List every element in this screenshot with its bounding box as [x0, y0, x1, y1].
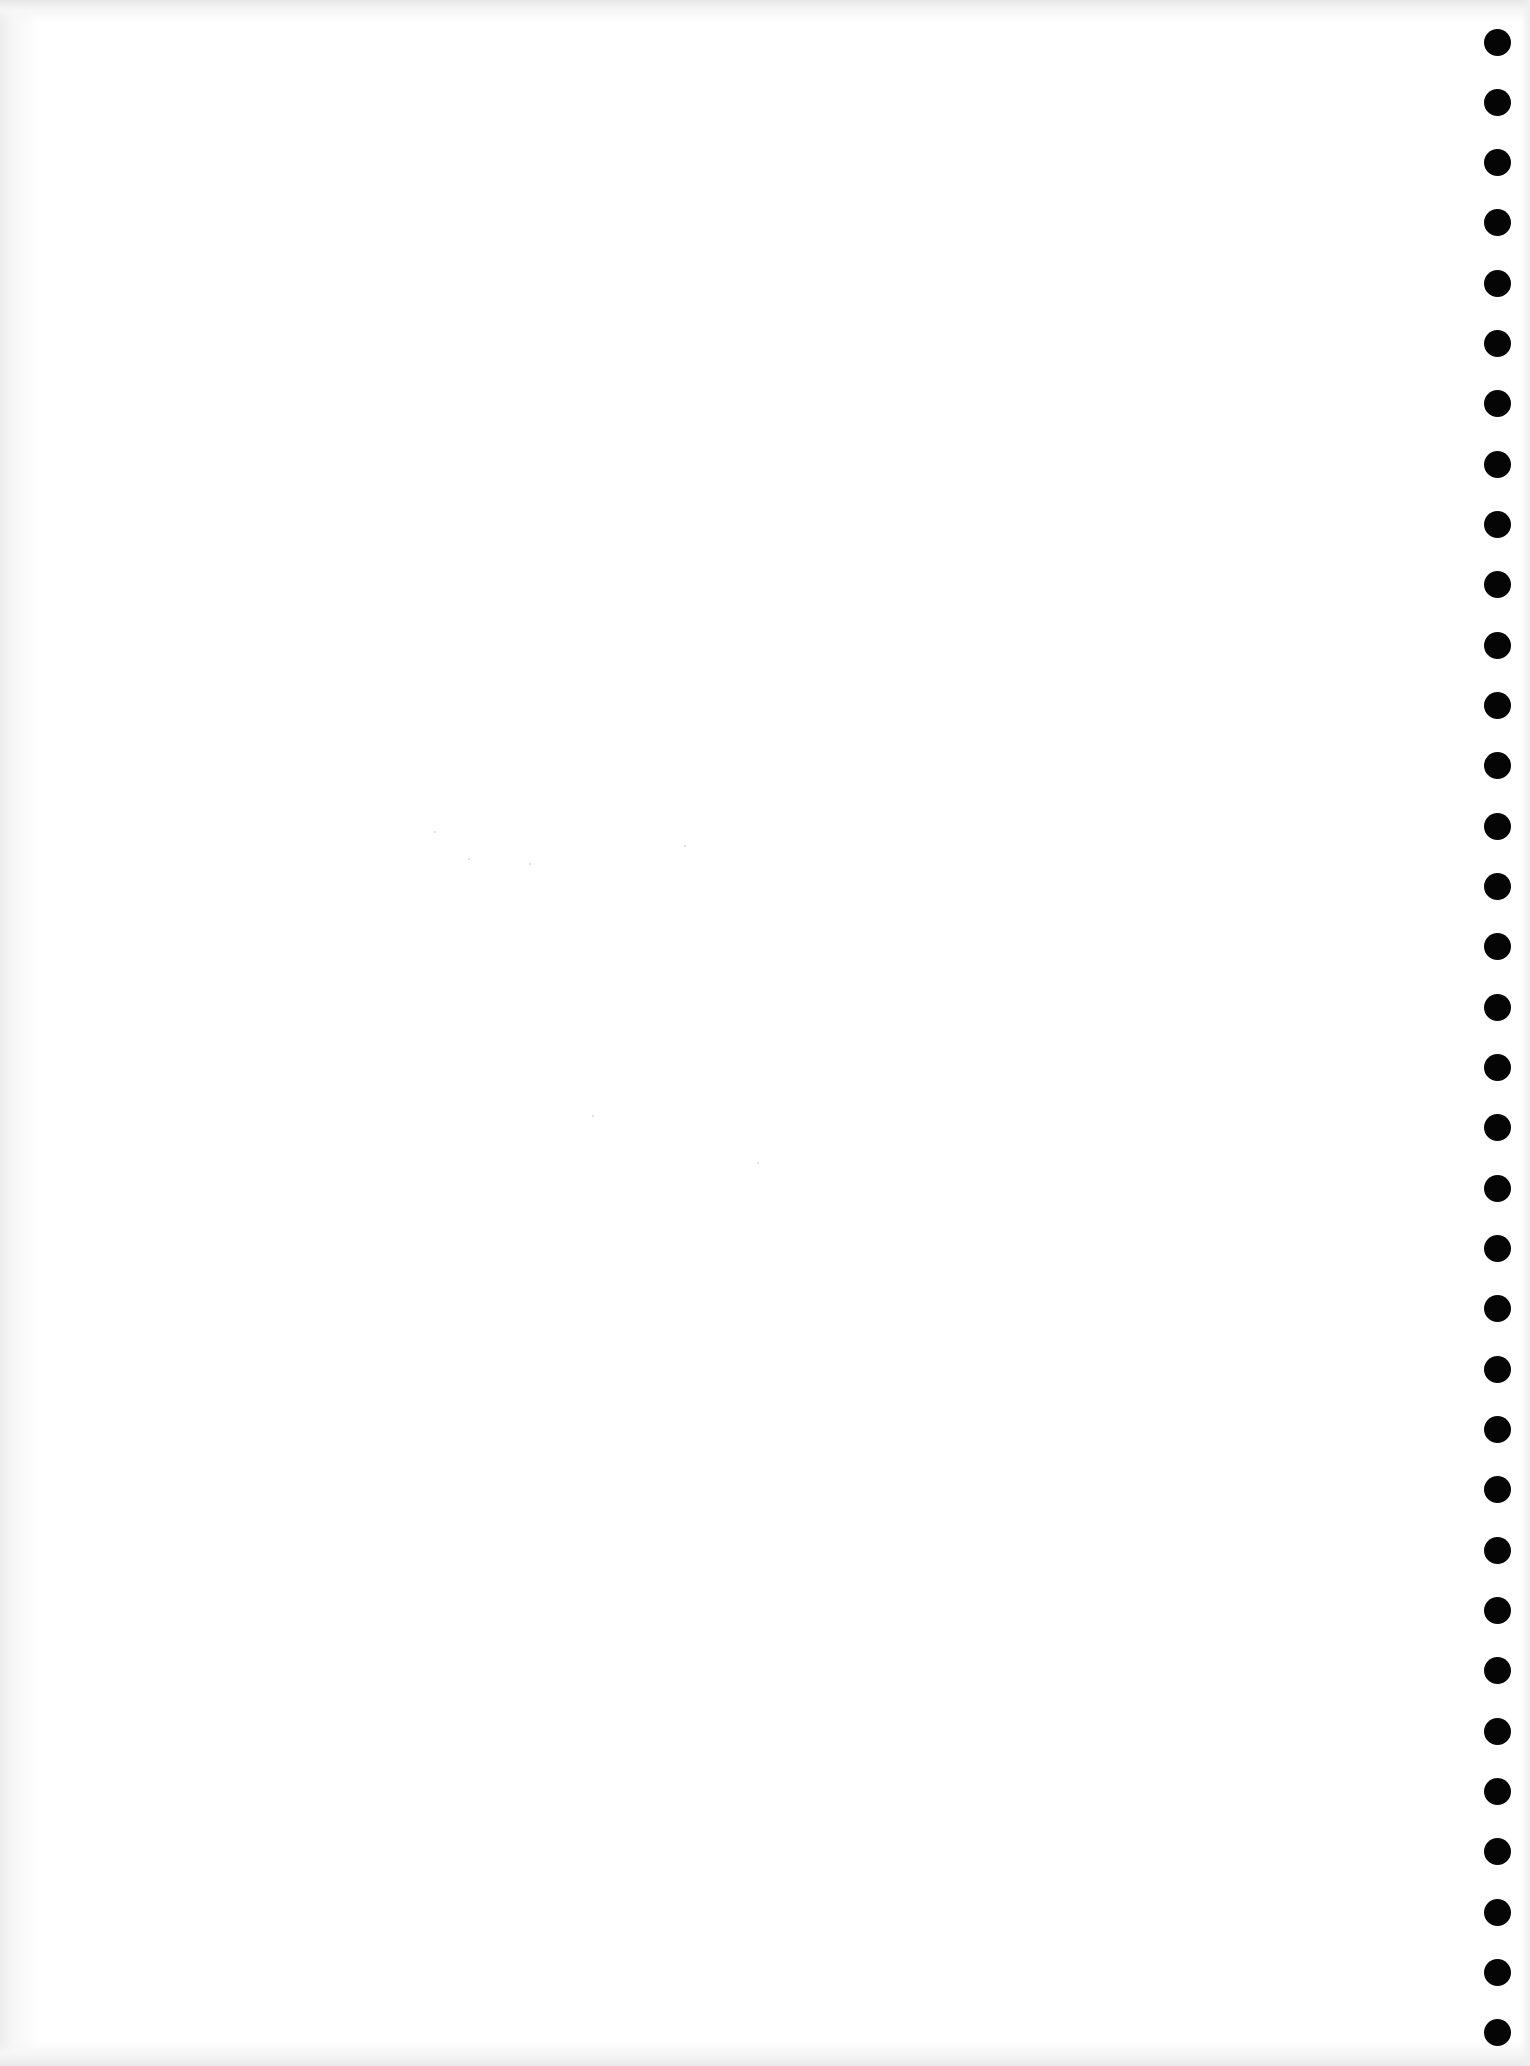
sprocket-hole-icon [1484, 813, 1511, 840]
sprocket-hole-icon [1484, 1295, 1511, 1322]
scan-right-edge-shadow [1520, 0, 1530, 2066]
sprocket-hole-icon [1484, 1537, 1511, 1564]
scan-bottom-edge-shadow [0, 2040, 1530, 2066]
sprocket-hole-icon [1484, 1657, 1511, 1684]
sprocket-hole-icon [1484, 1899, 1511, 1926]
sprocket-hole-icon [1484, 451, 1511, 478]
scan-speck [529, 863, 531, 865]
scan-speck [468, 858, 470, 860]
sprocket-hole-icon [1484, 1114, 1511, 1141]
sprocket-hole-icon [1484, 752, 1511, 779]
sprocket-hole-icon [1484, 511, 1511, 538]
sprocket-hole-icon [1484, 994, 1511, 1021]
sprocket-hole-icon [1484, 89, 1511, 116]
sprocket-hole-icon [1484, 390, 1511, 417]
sprocket-hole-icon [1484, 571, 1511, 598]
sprocket-hole-icon [1484, 1416, 1511, 1443]
sprocket-hole-icon [1484, 149, 1511, 176]
sprocket-hole-icon [1484, 1054, 1511, 1081]
sprocket-hole-icon [1484, 1356, 1511, 1383]
sprocket-hole-icon [1484, 270, 1511, 297]
sprocket-hole-icon [1484, 1597, 1511, 1624]
sprocket-hole-icon [1484, 1778, 1511, 1805]
sprocket-hole-icon [1484, 933, 1511, 960]
sprocket-hole-icon [1484, 1175, 1511, 1202]
sprocket-hole-strip [1484, 0, 1512, 2066]
sprocket-hole-icon [1484, 1838, 1511, 1865]
sprocket-hole-icon [1484, 209, 1511, 236]
scan-speck [592, 1115, 594, 1117]
sprocket-hole-icon [1484, 632, 1511, 659]
sprocket-hole-icon [1484, 2019, 1511, 2046]
scan-speck [757, 1162, 759, 1164]
sprocket-hole-icon [1484, 692, 1511, 719]
scan-top-edge-shadow [0, 0, 1530, 22]
sprocket-hole-icon [1484, 1959, 1511, 1986]
scan-speck [434, 831, 436, 833]
sprocket-hole-icon [1484, 29, 1511, 56]
blank-document-page [0, 0, 1530, 2066]
scan-speck [684, 845, 686, 847]
sprocket-hole-icon [1484, 1476, 1511, 1503]
sprocket-hole-icon [1484, 1718, 1511, 1745]
sprocket-hole-icon [1484, 1235, 1511, 1262]
sprocket-hole-icon [1484, 330, 1511, 357]
sprocket-hole-icon [1484, 873, 1511, 900]
